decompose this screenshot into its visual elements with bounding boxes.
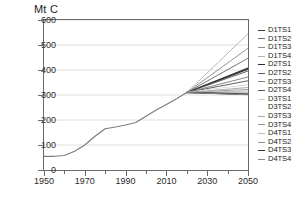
y-axis-tick-label: 200 bbox=[41, 115, 56, 125]
legend-swatch-icon bbox=[258, 142, 265, 143]
x-axis-tick-label: 1970 bbox=[75, 176, 95, 186]
y-axis-tick-mark bbox=[38, 120, 43, 121]
legend-swatch-icon bbox=[258, 150, 265, 151]
x-axis-tick-label: 1990 bbox=[116, 176, 136, 186]
y-axis-tick-label: 400 bbox=[41, 65, 56, 75]
legend-swatch-icon bbox=[258, 47, 265, 48]
legend-swatch-icon bbox=[258, 90, 265, 91]
x-axis-tick-mark bbox=[248, 171, 249, 176]
x-axis-tick-label: 1950 bbox=[34, 176, 54, 186]
legend-swatch-icon bbox=[258, 159, 265, 160]
y-axis-tick-mark bbox=[38, 45, 43, 46]
legend-swatch-icon bbox=[258, 133, 265, 134]
x-axis-tick-mark bbox=[207, 171, 208, 176]
chart-svg bbox=[44, 20, 248, 170]
legend-swatch-icon bbox=[258, 124, 265, 125]
x-axis-tick-label: 2030 bbox=[197, 176, 217, 186]
legend-swatch-icon bbox=[258, 73, 265, 74]
x-axis-minor-tick-mark bbox=[228, 171, 229, 174]
x-axis-minor-tick-mark bbox=[146, 171, 147, 174]
series-line-historical bbox=[44, 93, 187, 157]
x-axis-minor-tick-mark bbox=[105, 171, 106, 174]
y-axis-tick-label: 100 bbox=[41, 140, 56, 150]
legend-swatch-icon bbox=[258, 81, 265, 82]
y-axis-tick-label: 0 bbox=[51, 165, 56, 175]
plot-area bbox=[43, 19, 249, 171]
legend-swatch-icon bbox=[258, 38, 265, 39]
legend-swatch-icon bbox=[258, 64, 265, 65]
y-axis-tick-mark bbox=[38, 145, 43, 146]
y-axis-tick-label: 500 bbox=[41, 40, 56, 50]
y-axis-tick-mark bbox=[38, 20, 43, 21]
chart-legend: D1TS1D1TS2D1TS3D1TS4D2TS1D2TS2D2TS3D2TS4… bbox=[258, 26, 306, 164]
legend-swatch-icon bbox=[258, 116, 265, 117]
legend-swatch-icon bbox=[258, 107, 265, 108]
y-axis-tick-label: 300 bbox=[41, 90, 56, 100]
x-axis-tick-mark bbox=[44, 171, 45, 176]
chart-title: Mt C bbox=[34, 3, 58, 15]
x-axis-tick-label: 2010 bbox=[156, 176, 176, 186]
x-axis-tick-mark bbox=[126, 171, 127, 176]
x-axis-minor-tick-mark bbox=[64, 171, 65, 174]
legend-swatch-icon bbox=[258, 30, 265, 31]
y-axis-tick-mark bbox=[38, 170, 43, 171]
legend-item-label: D4TS4 bbox=[268, 155, 291, 164]
y-axis-tick-mark bbox=[38, 70, 43, 71]
chart-root: Mt C 0100200300400500600 195019701990201… bbox=[0, 0, 306, 203]
legend-swatch-icon bbox=[258, 56, 265, 57]
x-axis-tick-label: 2050 bbox=[238, 176, 258, 186]
y-axis-tick-mark bbox=[38, 95, 43, 96]
y-axis-tick-label: 600 bbox=[41, 15, 56, 25]
plot-inner bbox=[44, 20, 248, 170]
x-axis-tick-mark bbox=[85, 171, 86, 176]
x-axis-minor-tick-mark bbox=[187, 171, 188, 174]
legend-swatch-icon bbox=[258, 99, 265, 100]
legend-item-d4ts4[interactable]: D4TS4 bbox=[258, 155, 306, 164]
x-axis-tick-mark bbox=[166, 171, 167, 176]
